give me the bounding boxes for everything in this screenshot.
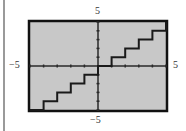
step-function-plot [0,0,186,131]
